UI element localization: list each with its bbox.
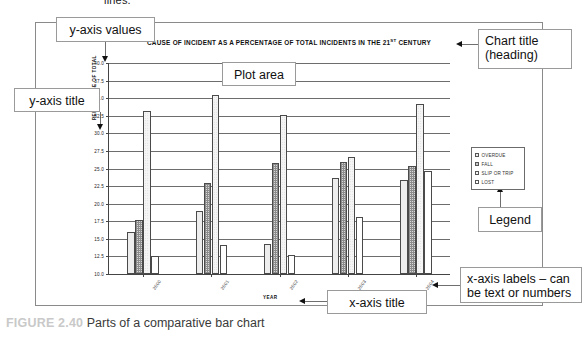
callout-x-axis-labels-line1: x-axis labels – can (467, 272, 575, 286)
callout-chart-title-line1: Chart title (485, 34, 565, 48)
bars-layer (109, 63, 450, 274)
bar (340, 162, 347, 274)
legend-swatch (475, 162, 479, 166)
bar (127, 232, 134, 274)
legend-item: SLIP OR TRIP (475, 169, 521, 178)
legend-item-label: OVERDUE (482, 153, 506, 158)
bar (143, 111, 150, 274)
y-axis-tick-label: 32.5 (94, 113, 104, 118)
legend-swatch (475, 171, 479, 175)
bar (424, 171, 431, 274)
legend-item-label: SLIP OR TRIP (482, 171, 514, 176)
arrowhead-chart-title (456, 41, 462, 47)
bar-group (245, 63, 313, 274)
y-axis-tick-label: 25.0 (94, 166, 104, 171)
y-axis-tick-label: 10.0 (94, 272, 104, 277)
legend-swatch (475, 180, 479, 184)
callout-x-axis-labels-line2: be text or numbers (467, 286, 575, 300)
figure-number: FIGURE 2.40 (6, 316, 83, 330)
y-axis-tick-label: 37.5 (94, 78, 104, 83)
y-axis-tick-label: 15.0 (94, 236, 104, 241)
callout-y-axis-values: y-axis values (56, 17, 155, 42)
bar (212, 95, 219, 274)
legend-item: LOST (475, 178, 521, 187)
connector-x-labels (438, 285, 460, 286)
x-axis-tick-mark (211, 274, 212, 277)
callout-plot-area: Plot area (222, 62, 296, 86)
x-axis-tick-mark (416, 274, 417, 277)
figure-caption-text: Parts of a comparative bar chart (87, 316, 265, 330)
callout-chart-title-line2: (heading) (485, 48, 565, 62)
y-axis-tick-label: 17.5 (94, 219, 104, 224)
callout-x-axis-labels: x-axis labels – can be text or numbers (460, 267, 582, 303)
callout-y-axis-title: y-axis title (14, 88, 100, 112)
bar (135, 220, 142, 274)
legend-item: OVERDUE (475, 151, 521, 160)
plot-area: 40.037.535.032.530.027.525.022.520.017.5… (108, 63, 450, 275)
legend: OVERDUEFALLSLIP OR TRIPLOST (471, 147, 525, 190)
y-axis-tick-label: 30.0 (94, 131, 104, 136)
y-axis-tick-label: 22.5 (94, 184, 104, 189)
bar (196, 211, 203, 274)
legend-item-label: LOST (482, 180, 495, 185)
bar-group (109, 63, 177, 274)
bar (400, 180, 407, 274)
x-axis-title: YEAR (263, 295, 277, 300)
callout-chart-title: Chart title (heading) (478, 29, 572, 69)
callout-x-axis-title: x-axis title (327, 290, 427, 314)
bar (280, 115, 287, 274)
bar-group (177, 63, 245, 274)
bar (348, 157, 355, 274)
arrowhead-y-title (97, 124, 103, 130)
bar-group (314, 63, 382, 274)
figure-caption: FIGURE 2.40 Parts of a comparative bar c… (6, 316, 265, 330)
chart-title: CAUSE OF INCIDENT AS A PERCENTAGE OF TOT… (147, 38, 431, 46)
chart-title-tail: CENTURY (396, 39, 430, 46)
x-axis-tick-mark (280, 274, 281, 277)
bar (264, 244, 271, 274)
bar (408, 166, 415, 274)
x-axis-tick-mark (143, 274, 144, 277)
bar (220, 245, 227, 274)
bar (356, 217, 363, 274)
y-axis-tick-label: 27.5 (94, 148, 104, 153)
bar (272, 163, 279, 274)
connector-x-title (305, 301, 327, 302)
y-axis-tick-label: 12.5 (94, 254, 104, 259)
y-axis-tick-label: 40.0 (94, 61, 104, 66)
bar (416, 104, 423, 274)
chart-title-main: CAUSE OF INCIDENT AS A PERCENTAGE OF TOT… (147, 39, 390, 46)
legend-item-label: FALL (482, 162, 494, 167)
y-axis-tick-mark (106, 274, 109, 275)
cut-off-text-line: lines. (104, 0, 131, 6)
bar (151, 256, 158, 274)
bar (332, 178, 339, 274)
legend-item: FALL (475, 160, 521, 169)
x-axis-tick-mark (348, 274, 349, 277)
connector-legend (500, 190, 501, 208)
arrowhead-x-title (299, 298, 305, 304)
bar (288, 255, 295, 274)
y-axis-tick-label: 20.0 (94, 201, 104, 206)
legend-swatch (475, 153, 479, 157)
bar (204, 183, 211, 274)
bar-group (382, 63, 450, 274)
callout-legend: Legend (478, 207, 542, 232)
